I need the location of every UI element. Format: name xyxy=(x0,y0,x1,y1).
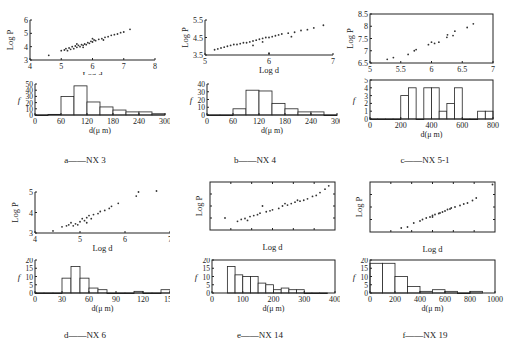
histogram-bars xyxy=(227,267,327,294)
x-tick-label: 6 xyxy=(123,235,127,244)
panel-b: 5673.54.55.5Log dLog P 06012018024030001… xyxy=(165,0,340,180)
x-tick-label: 200 xyxy=(268,295,280,304)
y-tick-label: 4 xyxy=(29,209,33,218)
x-tick-label: 400 xyxy=(414,295,426,304)
y-tick-label: 2 xyxy=(364,99,368,108)
x-tick-label: 1000 xyxy=(487,295,503,304)
y-tick-label: 4.5 xyxy=(193,34,203,43)
y-tick-label: 3.5 xyxy=(193,51,203,60)
scatter-points xyxy=(214,24,325,54)
x-tick-label: 5 xyxy=(78,235,82,244)
y-tick-label: 10 xyxy=(26,273,34,282)
y-tick-label: 7.5 xyxy=(358,35,368,44)
scatter-plot-e: Log dLog P xyxy=(165,180,340,255)
x-tick-label: 400 xyxy=(329,295,340,304)
y-tick-label: 20 xyxy=(26,258,34,265)
y-tick-label: 6 xyxy=(24,16,28,25)
x-tick-label: 180 xyxy=(279,117,291,126)
caption-e: e——NX 14 xyxy=(180,330,340,340)
y-tick-label: 40 xyxy=(198,80,206,89)
x-tick-label: 4 xyxy=(28,62,32,71)
x-tick-label: 120 xyxy=(253,117,265,126)
panel-f: Log dLog P 0200400600800100005101520d(μ … xyxy=(340,180,512,363)
x-tick-label: 30 xyxy=(58,295,66,304)
histogram-d: 030609012015005101520d(μ m)f xyxy=(0,258,170,338)
x-tick-label: 4 xyxy=(33,235,37,244)
y-tick-label: 7 xyxy=(364,47,368,56)
scatter-points xyxy=(400,184,493,229)
y-tick-label: 5 xyxy=(29,188,33,197)
x-tick-label: 800 xyxy=(487,121,499,130)
x-tick-label: 300 xyxy=(298,295,310,304)
x-axis-label: d(μ m) xyxy=(263,304,285,313)
y-axis-label: f xyxy=(353,272,357,282)
scatter-points xyxy=(224,185,330,222)
x-tick-label: 200 xyxy=(389,295,401,304)
x-tick-label: 90 xyxy=(112,295,120,304)
caption-f: f——NX 19 xyxy=(345,330,505,340)
x-axis-label: d(μ m) xyxy=(261,126,283,135)
y-tick-label: 50 xyxy=(26,80,34,89)
histogram-e: 010020030040005101520d(μ m)f xyxy=(165,258,340,338)
x-axis-label: d(μ m) xyxy=(422,304,444,313)
x-tick-label: 120 xyxy=(81,117,93,126)
caption-b: b——NX 4 xyxy=(175,155,335,165)
scatter-plot-f: Log dLog P xyxy=(340,180,512,255)
x-tick-label: 0 xyxy=(368,295,372,304)
histogram-b: 060120180240300010203040d(μ m)f xyxy=(165,78,340,158)
x-tick-label: 0 xyxy=(205,117,209,126)
x-tick-label: 120 xyxy=(137,295,149,304)
y-axis-label: Log P xyxy=(354,196,364,217)
y-tick-label: 5 xyxy=(24,29,28,38)
y-tick-label: 5 xyxy=(206,281,210,290)
x-axis-label: Log d xyxy=(421,73,442,75)
y-tick-label: 3 xyxy=(364,92,368,101)
x-tick-label: 60 xyxy=(85,295,93,304)
x-tick-label: 0 xyxy=(33,295,37,304)
y-tick-label: 5 xyxy=(364,78,368,85)
y-tick-label: 0 xyxy=(201,111,205,120)
y-tick-label: 6.5 xyxy=(358,59,368,68)
y-tick-label: 0 xyxy=(206,289,210,298)
plot-frame xyxy=(370,14,493,63)
y-axis-label: f xyxy=(353,95,357,105)
x-axis-label: Log d xyxy=(262,242,283,252)
y-tick-label: 15 xyxy=(26,264,34,273)
caption-a: a——NX 3 xyxy=(5,155,165,165)
y-tick-label: 1 xyxy=(364,107,368,116)
y-axis-label: Log P xyxy=(180,27,190,48)
x-tick-label: 8 xyxy=(153,62,157,71)
plot-frame xyxy=(210,182,335,230)
panel-c: 55.566.576.577.588.5Log dLog P 020040060… xyxy=(340,0,512,180)
histogram-f: 0200400600800100005101520d(μ m)f xyxy=(340,258,512,338)
y-axis-label: Log P xyxy=(10,202,20,223)
y-axis-label: Log P xyxy=(194,195,204,216)
caption-d: d——NX 6 xyxy=(5,330,165,340)
y-tick-label: 8.5 xyxy=(358,10,368,19)
x-tick-label: 800 xyxy=(464,295,476,304)
x-axis-label: Log d xyxy=(259,65,280,75)
y-tick-label: 20 xyxy=(203,258,211,265)
x-tick-label: 7 xyxy=(491,65,495,74)
panel-a: 456783456Log dLog P 06012018024030001020… xyxy=(0,0,170,180)
histogram-bars xyxy=(370,88,493,120)
x-tick-label: 180 xyxy=(107,117,119,126)
x-tick-label: 0 xyxy=(368,121,372,130)
y-tick-label: 20 xyxy=(198,96,206,105)
scatter-plot-a: 456783456Log dLog P xyxy=(0,0,170,75)
y-tick-label: 4 xyxy=(24,43,28,52)
x-tick-label: 60 xyxy=(57,117,65,126)
x-tick-label: 6.5 xyxy=(457,65,467,74)
x-tick-label: 60 xyxy=(229,117,237,126)
scatter-points xyxy=(48,28,131,56)
y-axis-label: Log P xyxy=(345,28,355,49)
y-tick-label: 15 xyxy=(203,264,211,273)
x-tick-label: 7 xyxy=(331,57,335,66)
y-tick-label: 3 xyxy=(29,229,33,238)
y-axis-label: f xyxy=(190,95,194,105)
histogram-bars xyxy=(35,267,170,294)
histogram-a: 06012018024030001020304050d(μ m)f xyxy=(0,78,170,158)
x-axis-label: Log d xyxy=(92,243,113,253)
histogram-bars xyxy=(370,263,483,293)
y-tick-label: 10 xyxy=(198,103,206,112)
